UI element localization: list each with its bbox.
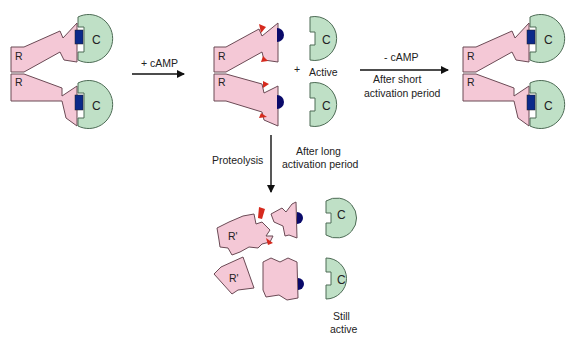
pseudosubstrate-block-bottom-right bbox=[527, 95, 535, 110]
camp-binding-fragment-bottom bbox=[263, 258, 298, 300]
label-r-top-right: R bbox=[467, 50, 475, 62]
label-c-free-bottom: C bbox=[322, 99, 331, 113]
label-r-prime-top: R' bbox=[228, 230, 238, 242]
label-c-still-top: C bbox=[337, 208, 346, 222]
plus-sign: + bbox=[294, 63, 300, 75]
active-label: Active bbox=[309, 66, 338, 78]
note-long-1: After long bbox=[296, 145, 341, 157]
pka-activation-diagram: R R C C + cAMP R R C C + Active - cAMP A… bbox=[0, 0, 577, 342]
camp-molecule-bottom bbox=[277, 95, 284, 109]
regulatory-fragment-top bbox=[217, 214, 273, 255]
camp-molecule-fragment-bottom bbox=[298, 278, 304, 290]
camp-binding-fragment-top bbox=[271, 202, 297, 238]
label-r-prime-bottom: R' bbox=[229, 272, 239, 284]
edge-remove-camp: - cAMP After short activation period bbox=[360, 51, 448, 99]
note-short-2: activation period bbox=[364, 87, 441, 99]
regulatory-subunit-top-activated bbox=[214, 23, 278, 72]
label-r-bottom: R bbox=[15, 76, 23, 88]
camp-molecule-top bbox=[277, 28, 284, 42]
label-r-top-activated: R bbox=[218, 50, 226, 62]
label-r-top: R bbox=[15, 50, 23, 62]
label-remove-camp: - cAMP bbox=[384, 51, 418, 63]
label-c-bottom: C bbox=[92, 99, 101, 113]
camp-site-marker-3 bbox=[263, 81, 269, 88]
still-active-label-line2: active bbox=[330, 323, 358, 335]
note-long-2: activation period bbox=[282, 158, 359, 170]
regulatory-subunit-top bbox=[11, 23, 77, 72]
holoenzyme-left: R R C C bbox=[11, 14, 113, 128]
still-active-label-line1: Still bbox=[333, 310, 350, 322]
regulatory-subunit-top-right bbox=[463, 23, 529, 72]
proteolyzed-state: R' R' C C Still active bbox=[214, 198, 358, 335]
cleavage-marker-1 bbox=[258, 207, 265, 219]
pseudosubstrate-block-top-right bbox=[527, 30, 535, 44]
pseudosubstrate-block-bottom bbox=[75, 95, 83, 110]
note-short-1: After short bbox=[373, 73, 422, 85]
label-c-still-bottom: C bbox=[337, 273, 346, 287]
edge-add-camp: + cAMP bbox=[132, 57, 184, 74]
label-r-bottom-activated: R bbox=[218, 76, 226, 88]
edge-proteolysis: Proteolysis After long activation period bbox=[212, 135, 359, 192]
label-proteolysis: Proteolysis bbox=[212, 154, 263, 166]
label-c-top-right: C bbox=[544, 33, 553, 47]
activated-state: R R C C + Active bbox=[214, 17, 338, 127]
label-r-bottom-right: R bbox=[467, 76, 475, 88]
pseudosubstrate-block-top bbox=[75, 30, 83, 44]
label-c-free-top: C bbox=[322, 33, 331, 47]
label-add-camp: + cAMP bbox=[141, 57, 178, 69]
label-c-top: C bbox=[92, 33, 101, 47]
holoenzyme-right: R R C C bbox=[463, 15, 565, 129]
camp-molecule-fragment-top bbox=[297, 212, 303, 224]
label-c-bottom-right: C bbox=[544, 99, 553, 113]
